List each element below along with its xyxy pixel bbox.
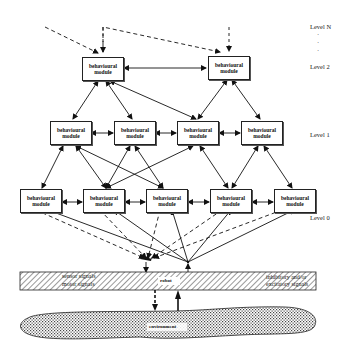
level-dot: · — [317, 31, 319, 38]
module-level0-c: behavioural module — [146, 189, 188, 213]
robot-label: robot — [160, 278, 172, 283]
module-label: module — [21, 201, 61, 207]
legend-inhibitory-label: inhibitory and/or — [266, 274, 307, 281]
legend-sensor-label: sensor signals — [62, 273, 96, 280]
module-label: module — [115, 133, 155, 139]
module-label: module — [211, 201, 251, 207]
module-label: module — [209, 68, 249, 74]
level-dot: · — [317, 47, 319, 54]
module-label: module — [51, 133, 91, 139]
module-level2-b: behavioural module — [208, 56, 250, 80]
motor-signal-line — [103, 27, 220, 52]
legend-motor-label: motor signals — [62, 281, 95, 288]
module-label: module — [83, 69, 123, 75]
environment-label: environment — [149, 324, 176, 329]
module-level1-c: behavioural module — [177, 121, 219, 145]
level-2-label: Level 2 — [310, 63, 330, 70]
module-level1-a: behavioural module — [50, 121, 92, 145]
module-level2-a: behavioural module — [82, 57, 124, 81]
module-level0-b: behavioural module — [83, 189, 125, 213]
module-label: module — [275, 201, 315, 207]
module-level0-d: behavioural module — [210, 189, 252, 213]
level-n-label: Level N — [310, 23, 331, 30]
module-level0-a: behavioural module — [20, 189, 62, 213]
module-label: module — [178, 133, 218, 139]
module-level1-b: behavioural module — [114, 121, 156, 145]
legend-excitatory-label: excitatory signals — [266, 281, 308, 288]
level-0-label: Level 0 — [310, 214, 330, 221]
module-level1-d: behavioural module — [241, 121, 283, 145]
sensor-signal-line — [48, 210, 188, 262]
module-level0-e: behavioural module — [274, 189, 316, 213]
motor-signal-line — [45, 27, 98, 53]
module-label: module — [242, 133, 282, 139]
diagram-canvas — [0, 0, 342, 363]
environment-blob — [21, 307, 316, 339]
module-label: module — [84, 201, 124, 207]
level-dot: · — [317, 39, 319, 46]
level-1-label: Level 1 — [310, 131, 330, 138]
module-label: module — [147, 201, 187, 207]
